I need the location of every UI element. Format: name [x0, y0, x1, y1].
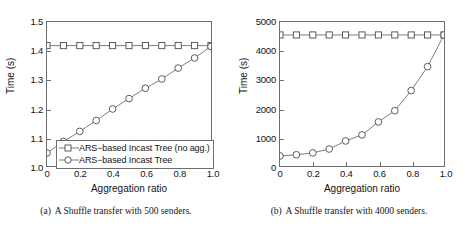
panel-a-caption-tag: (a) [40, 206, 51, 216]
panel-b-series-1-marker [342, 138, 349, 145]
panel-a-y-tick-mark [47, 80, 51, 81]
panel-b-caption-text: A Shuffle transfer with 4000 senders. [286, 206, 428, 216]
panel-b-y-axis-label: Time (s) [239, 58, 249, 94]
panel-a-y-tick-label: 1.3 [30, 76, 43, 86]
panel-a-series-0-marker [126, 43, 132, 49]
panel-a-y-tick-label: 1.1 [30, 134, 43, 144]
panel-a-x-tick-label: 0.8 [173, 169, 186, 179]
panel-b-x-tick-label: 0.8 [406, 169, 419, 179]
figure-two-panel-line-charts: Time (s) 1.01.11.21.31.41.500.20.40.60.8… [0, 0, 465, 228]
panel-b-y-tick-label: 0 [271, 163, 276, 173]
panel-b-x-tick-mark [380, 162, 381, 166]
panel-a-series-1-marker [126, 95, 133, 102]
panel-b-series-1-marker [326, 146, 333, 153]
panel-b-y-tick-mark [280, 80, 284, 81]
panel-a-y-tick-label: 1.4 [30, 46, 43, 56]
panel-b-y-tick-mark [280, 139, 284, 140]
panel-a-series-1-marker [158, 76, 165, 83]
panel-a-y-tick-label: 1.2 [30, 105, 43, 115]
panel-b-y-tick-label: 1000 [256, 134, 276, 144]
panel-a-y-axis-label: Time (s) [6, 58, 16, 94]
panel-b: Time (s) 01000200030004000500000.20.40.6… [233, 0, 465, 228]
panel-a-y-tick-label: 1.5 [30, 17, 43, 27]
panel-b-plot-area: 01000200030004000500000.20.40.60.81.0 [279, 21, 445, 167]
panel-a-legend-entry-no-agg: ARS−based Incast Tree (no agg.) [59, 142, 210, 154]
panel-a-x-tick-label: 0.2 [74, 169, 87, 179]
panel-a-caption: (a) A Shuffle transfer with 500 senders. [0, 206, 232, 216]
panel-a-series-1-marker [93, 117, 100, 124]
panel-b-series-1-marker [309, 150, 316, 157]
panel-b-x-tick-mark [413, 162, 414, 166]
panel-a-legend-label-agg: ARS−based Incast Tree [79, 156, 172, 165]
panel-a-series-1-marker [175, 65, 182, 72]
panel-a-caption-text: A Shuffle transfer with 500 senders. [55, 206, 192, 216]
panel-b-y-tick-mark [280, 110, 284, 111]
panel-b-series-1-marker [424, 63, 431, 70]
circle-marker-icon [59, 155, 79, 165]
panel-a-series-0-marker [110, 43, 116, 49]
panel-b-x-tick-label: 0.2 [307, 169, 320, 179]
panel-b-x-axis-label: Aggregation ratio [279, 184, 445, 194]
panel-a-series-1-marker [208, 43, 211, 50]
panel-a-y-tick-label: 1.0 [30, 163, 43, 173]
panel-b-series-1-marker [408, 87, 415, 94]
panel-b-x-tick-label: 0.4 [340, 169, 353, 179]
panel-a-series-0-marker [175, 43, 181, 49]
panel-b-series-1-marker [293, 151, 300, 158]
panel-b-series-1-marker [391, 107, 398, 114]
panel-b-y-tick-label: 3000 [256, 76, 276, 86]
panel-b-series-0-marker [375, 32, 381, 38]
panel-b-series-1-marker [359, 132, 366, 139]
panel-a-series-0-marker [47, 43, 50, 49]
panel-b-x-tick-label: 1.0 [440, 169, 453, 179]
panel-a-y-tick-mark [47, 110, 51, 111]
panel-b-series-0-marker [408, 32, 414, 38]
panel-b-y-tick-mark [280, 51, 284, 52]
panel-a-x-tick-label: 0 [44, 169, 49, 179]
panel-a-series-0-marker [93, 43, 99, 49]
panel-b-series-0-marker [293, 32, 299, 38]
panel-b-series-1-marker [375, 119, 382, 126]
square-marker-icon [59, 143, 79, 153]
panel-b-series-0-marker [359, 32, 365, 38]
panel-b-y-tick-label: 2000 [256, 105, 276, 115]
panel-b-series-0-marker [280, 32, 283, 38]
panel-a-y-tick-mark [47, 51, 51, 52]
panel-b-series-0-marker [425, 32, 431, 38]
panel-b-caption-tag: (b) [271, 206, 282, 216]
panel-b-series-1-marker [280, 153, 283, 160]
panel-b-series-0-marker [343, 32, 349, 38]
panel-a-series-1-marker [191, 55, 198, 62]
panel-a-series-1-marker [142, 85, 149, 92]
panel-a-x-axis-label: Aggregation ratio [46, 184, 212, 194]
panel-a-x-tick-label: 0.6 [140, 169, 153, 179]
panel-b-x-tick-mark [346, 162, 347, 166]
panel-a-series-0-marker [192, 43, 198, 49]
panel-b-y-tick-label: 5000 [256, 17, 276, 27]
panel-a-series-0-marker [142, 43, 148, 49]
panel-b-x-tick-mark [313, 162, 314, 166]
panel-b-caption: (b) A Shuffle transfer with 4000 senders… [233, 206, 465, 216]
panel-b-series-0-marker [326, 32, 332, 38]
panel-a-legend: ARS−based Incast Tree (no agg.) ARS−base… [56, 140, 214, 169]
panel-a-x-tick-label: 1.0 [207, 169, 220, 179]
panel-a-x-tick-label: 0.4 [107, 169, 120, 179]
panel-a-series-1-marker [47, 150, 50, 157]
panel-a-series-0-marker [159, 43, 165, 49]
panel-a-series-1-marker [109, 106, 116, 113]
panel-b-series-0-marker [310, 32, 316, 38]
panel-a-series-0-marker [60, 43, 66, 49]
panel-b-plot-svg [280, 22, 444, 166]
panel-b-x-tick-label: 0 [277, 169, 282, 179]
panel-b-series-1-marker [441, 32, 444, 39]
panel-a-y-tick-mark [47, 139, 51, 140]
panel-b-y-tick-label: 4000 [256, 46, 276, 56]
panel-b-x-tick-label: 0.6 [373, 169, 386, 179]
panel-b-series-0-marker [392, 32, 398, 38]
panel-a-legend-label-no-agg: ARS−based Incast Tree (no agg.) [79, 144, 210, 153]
panel-a-series-0-marker [77, 43, 83, 49]
panel-a-legend-entry-agg: ARS−based Incast Tree [59, 154, 210, 166]
panel-a: Time (s) 1.01.11.21.31.41.500.20.40.60.8… [0, 0, 232, 228]
panel-a-series-1-marker [76, 128, 83, 135]
